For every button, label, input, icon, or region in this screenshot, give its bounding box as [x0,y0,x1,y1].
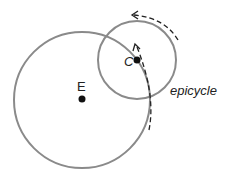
earth-dot [79,96,86,103]
center-dot [134,57,141,64]
epicycle-arrow [134,15,178,40]
center-label: C [124,54,134,69]
epicycle-label: epicycle [170,83,217,98]
earth-label: E [77,79,86,94]
epicycle-diagram: E C epicycle [0,0,231,177]
